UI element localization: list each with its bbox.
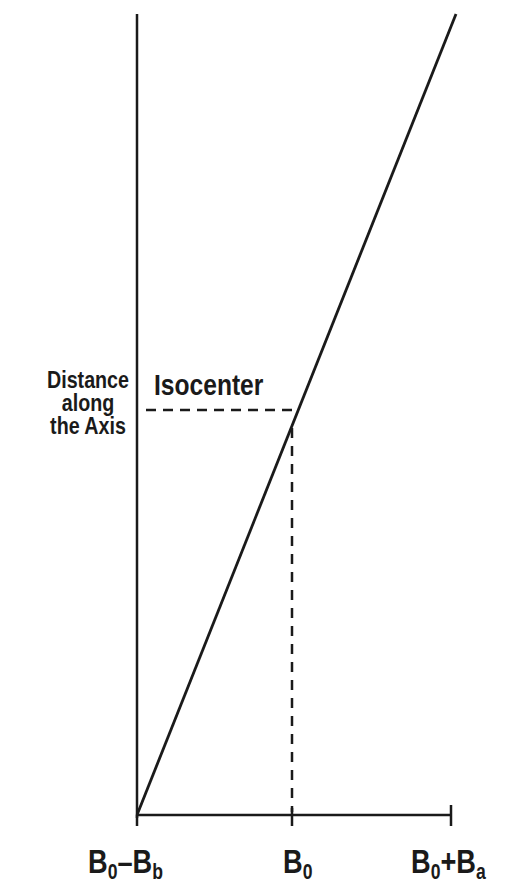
y-axis-label-line: the Axis — [22, 414, 153, 437]
x-tick-label-max: B0+Ba — [411, 842, 486, 885]
y-axis-label-line: along — [22, 391, 153, 414]
tick-subscript: b — [152, 859, 163, 884]
tick-base: B — [88, 842, 108, 880]
tick-subscript: 0 — [108, 859, 118, 884]
diagram-canvas — [0, 0, 508, 890]
y-axis-label: Distance along the Axis — [22, 368, 153, 437]
tick-subscript: 0 — [303, 859, 313, 884]
isocenter-label: Isocenter — [154, 368, 263, 402]
y-axis-label-line: Distance — [22, 368, 153, 391]
tick-base: B — [456, 842, 476, 880]
tick-subscript: a — [476, 859, 486, 884]
tick-base: B — [133, 842, 153, 880]
tick-subscript: 0 — [431, 859, 441, 884]
gradient-line — [137, 14, 456, 815]
x-tick-label-min: B0–Bb — [88, 842, 163, 885]
tick-operator: + — [440, 842, 456, 880]
tick-operator: – — [117, 842, 132, 880]
x-tick-label-center: B0 — [283, 842, 312, 885]
tick-base: B — [411, 842, 431, 880]
tick-base: B — [283, 842, 303, 880]
